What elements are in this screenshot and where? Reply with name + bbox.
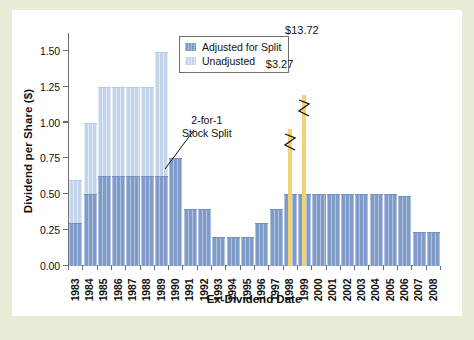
x-axis-tick-label: 1994 (227, 270, 239, 314)
y-axis-tick-label: 1.50 (40, 45, 60, 57)
bar-adjusted-for-split (69, 223, 82, 266)
bar-adjusted-for-split (270, 209, 283, 266)
bar-adjusted-for-split (355, 194, 368, 266)
stock-split-annotation: 2-for-1 Stock Split (182, 114, 232, 139)
bar-adjusted-for-split (227, 237, 240, 266)
x-axis-tick-label: 1993 (212, 270, 224, 314)
bar-adjusted-for-split (312, 194, 325, 266)
x-axis-tick-label: 1996 (255, 270, 267, 314)
bar-adjusted-for-split (169, 158, 182, 266)
y-axis-tick (63, 193, 68, 194)
legend-label-adjusted: Adjusted for Split (202, 41, 281, 53)
bar-adjusted-for-split (141, 176, 154, 266)
bar-adjusted-for-split (155, 176, 168, 266)
x-axis-tick-label: 2003 (355, 270, 367, 314)
y-axis-tick (63, 121, 68, 122)
x-axis-tick-label: 1998 (284, 270, 296, 314)
bar-adjusted-for-split (212, 237, 225, 266)
y-axis-tick-label: 0.75 (40, 152, 60, 164)
stock-split-annotation-line2: Stock Split (182, 127, 232, 140)
x-axis-tick-label: 1984 (83, 270, 95, 314)
bar-adjusted-for-split (327, 194, 340, 266)
x-axis-tick-label: 1992 (198, 270, 210, 314)
legend-swatch-unadjusted-icon (185, 57, 196, 65)
bar-adjusted-for-split (84, 194, 97, 266)
x-axis-tick-label: 1988 (141, 270, 153, 314)
bar-adjusted-for-split (98, 176, 111, 266)
y-axis-title-label: Dividend per Share ($) (22, 89, 34, 213)
bar-special-dividend (288, 129, 292, 266)
special-dividend-value-label: $3.27 (266, 58, 294, 70)
stock-split-annotation-line1: 2-for-1 (182, 114, 232, 127)
bar-adjusted-for-split (184, 209, 197, 266)
y-axis-tick (63, 229, 68, 230)
y-axis-tick (63, 50, 68, 51)
bar-adjusted-for-split (198, 209, 211, 266)
figure-root: Dividend per Share ($) 0.000.250.500.751… (0, 0, 474, 340)
x-axis-tick-label: 1997 (269, 270, 281, 314)
x-axis-tick-label: 1999 (298, 270, 310, 314)
y-axis-title: Dividend per Share ($) (20, 46, 36, 256)
x-axis-tick-label: 1991 (184, 270, 196, 314)
bar-adjusted-for-split (370, 194, 383, 266)
x-axis-tick-label: 2008 (427, 270, 439, 314)
legend-label-unadjusted: Unadjusted (202, 55, 255, 67)
special-dividend-value-label: $13.72 (285, 24, 319, 36)
y-axis-tick (63, 157, 68, 158)
bar-adjusted-for-split (398, 196, 411, 266)
x-axis-tick-label: 2001 (327, 270, 339, 314)
x-axis-title: Ex-Dividend Date (68, 293, 440, 305)
bar-adjusted-for-split (427, 232, 440, 266)
bar-adjusted-for-split (341, 194, 354, 266)
x-axis-tick-label: 1986 (112, 270, 124, 314)
x-axis-tick-label: 2006 (398, 270, 410, 314)
x-axis-tick-label: 2005 (384, 270, 396, 314)
y-axis-tick-label: 0.50 (40, 188, 60, 200)
bar-adjusted-for-split (112, 176, 125, 266)
bar-special-dividend (302, 95, 306, 266)
legend-swatch-adjusted-icon (185, 43, 196, 51)
legend-entry-adjusted: Adjusted for Split (185, 40, 281, 54)
x-axis-tick-label: 2002 (341, 270, 353, 314)
x-axis-tick-label: 1989 (155, 270, 167, 314)
x-axis-tick-label: 2000 (312, 270, 324, 314)
x-axis-tick-label: 2007 (413, 270, 425, 314)
y-axis-tick-label: 0.00 (40, 260, 60, 272)
x-axis-tick-label: 2004 (370, 270, 382, 314)
x-axis-tick-label: 1990 (169, 270, 181, 314)
bar-adjusted-for-split (413, 232, 426, 266)
bar-adjusted-for-split (126, 176, 139, 266)
x-axis-tick-label: 1987 (126, 270, 138, 314)
y-axis-tick-label: 1.25 (40, 81, 60, 93)
bar-adjusted-for-split (241, 237, 254, 266)
x-axis-tick-label: 1995 (241, 270, 253, 314)
chart-card: Dividend per Share ($) 0.000.250.500.751… (12, 10, 462, 316)
x-axis-tick (440, 266, 441, 270)
y-axis-tick-label: 1.00 (40, 117, 60, 129)
x-axis-tick-label: 1983 (69, 270, 81, 314)
y-axis-tick-label: 0.25 (40, 224, 60, 236)
x-axis-tick-label: 1985 (98, 270, 110, 314)
y-axis-tick (63, 86, 68, 87)
bar-adjusted-for-split (255, 223, 268, 266)
bar-adjusted-for-split (384, 194, 397, 266)
